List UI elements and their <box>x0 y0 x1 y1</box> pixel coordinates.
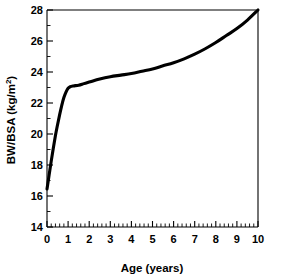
x-tick-label-1: 1 <box>65 233 71 245</box>
x-axis-title: Age (years) <box>121 262 184 274</box>
y-tick-label-28: 28 <box>31 4 43 16</box>
x-tick-label-6: 6 <box>171 233 177 245</box>
x-tick-label-3: 3 <box>107 233 113 245</box>
x-tick-label-5: 5 <box>149 233 155 245</box>
y-tick-label-16: 16 <box>31 190 43 202</box>
y-tick-label-18: 18 <box>31 159 43 171</box>
y-tick-label-22: 22 <box>31 97 43 109</box>
x-tick-label-4: 4 <box>128 233 135 245</box>
y-tick-label-14: 14 <box>31 221 44 233</box>
y-tick-label-20: 20 <box>31 128 43 140</box>
bw-bsa-vs-age-line-chart: 1416182022242628 012345678910 Age (years… <box>0 0 284 278</box>
y-axis-title-base: BW/BSA (kg/m <box>5 84 17 164</box>
x-tick-label-10: 10 <box>252 233 264 245</box>
x-tick-label-2: 2 <box>86 233 92 245</box>
y-tick-label-26: 26 <box>31 35 43 47</box>
x-tick-label-8: 8 <box>213 233 219 245</box>
x-tick-label-0: 0 <box>44 233 50 245</box>
x-tick-label-7: 7 <box>192 233 198 245</box>
chart-figure: 1416182022242628 012345678910 Age (years… <box>0 0 284 278</box>
x-tick-label-9: 9 <box>234 233 240 245</box>
y-tick-label-24: 24 <box>31 66 44 78</box>
y-axis-title-close: ) <box>5 76 17 80</box>
y-axis-title: BW/BSA (kg/m2) <box>4 76 17 165</box>
